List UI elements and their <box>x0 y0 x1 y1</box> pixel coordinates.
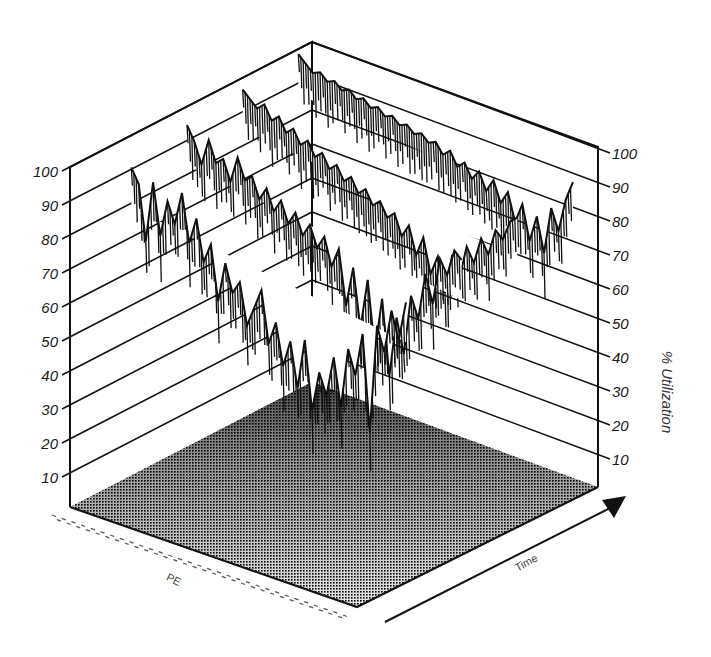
z-tick-right: 90 <box>612 179 629 196</box>
z-tick-left: 10 <box>41 469 58 486</box>
z-tick-left: 90 <box>41 197 58 214</box>
z-tick-left: 30 <box>41 401 58 418</box>
z-tick-left: 70 <box>41 265 58 282</box>
z-tick-right: 10 <box>612 451 629 468</box>
z-tick-right: 60 <box>612 281 629 298</box>
z-tick-right: 70 <box>612 247 629 264</box>
surface-chart: 1009080706050403020101009080706050403020… <box>0 0 711 657</box>
pe-axis-title: PE <box>165 571 183 588</box>
z-tick-right: 100 <box>612 145 638 162</box>
z-tick-left: 60 <box>41 299 58 316</box>
z-tick-right: 50 <box>612 315 629 332</box>
z-tick-right: 40 <box>612 349 629 366</box>
z-tick-left: 50 <box>41 333 58 350</box>
z-tick-left: 40 <box>41 367 58 384</box>
z-tick-right: 80 <box>612 213 629 230</box>
z-tick-left: 80 <box>41 231 58 248</box>
z-axis-title: % Utilization <box>659 351 676 434</box>
z-tick-right: 30 <box>612 383 629 400</box>
z-tick-right: 20 <box>611 417 629 434</box>
z-tick-left: 20 <box>40 435 58 452</box>
z-tick-left: 100 <box>33 163 59 180</box>
